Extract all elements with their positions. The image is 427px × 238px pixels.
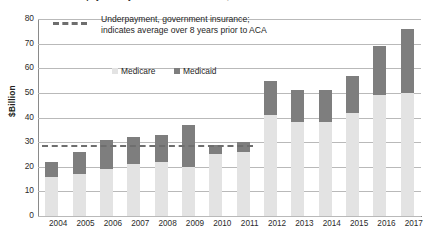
bar-2012 xyxy=(264,81,277,216)
x-tick-2013: 2013 xyxy=(291,219,317,228)
bar-segment-medicare-2011 xyxy=(237,152,250,216)
y-axis-tick-labels: 01020304050607080 xyxy=(0,19,34,217)
bar-segment-medicare-2016 xyxy=(373,95,386,216)
x-tick-2016: 2016 xyxy=(373,219,399,228)
chart-title: Underpayment by Medicare and Medicaid, 2… xyxy=(62,0,272,1)
legend-swatch-medicare-icon xyxy=(112,68,118,74)
bar-segment-medicaid-2008 xyxy=(155,135,168,162)
x-tick-2012: 2012 xyxy=(264,219,290,228)
bar-segment-medicare-2010 xyxy=(209,154,222,216)
bar-2011 xyxy=(237,142,250,216)
legend-average: Underpayment, government insurance; indi… xyxy=(53,14,353,44)
x-tick-2014: 2014 xyxy=(319,219,345,228)
x-axis-tick-labels: 2004200520062007200820092010201120122013… xyxy=(38,219,421,235)
x-tick-2006: 2006 xyxy=(100,219,126,228)
bar-2009 xyxy=(182,125,195,216)
x-tick-2009: 2009 xyxy=(182,219,208,228)
bar-2010 xyxy=(209,145,222,216)
bar-segment-medicare-2007 xyxy=(127,164,140,216)
legend-swatch-medicaid-icon xyxy=(174,68,180,74)
legend-average-line2: indicates average over 8 years prior to … xyxy=(101,25,267,35)
bar-segment-medicare-2008 xyxy=(155,162,168,216)
y-tick-60: 60 xyxy=(4,62,34,72)
bar-2016 xyxy=(373,46,386,216)
bar-segment-medicare-2009 xyxy=(182,167,195,216)
y-tick-40: 40 xyxy=(4,112,34,122)
chart-title-clipped: Underpayment by Medicare and Medicaid, 2… xyxy=(0,0,427,7)
y-tick-0: 0 xyxy=(4,210,34,220)
bar-segment-medicare-2014 xyxy=(319,122,332,216)
bar-2007 xyxy=(127,137,140,216)
bar-series-group xyxy=(38,19,421,216)
bar-2005 xyxy=(73,152,86,216)
bar-segment-medicaid-2014 xyxy=(319,90,332,122)
legend-item-medicaid: Medicaid xyxy=(174,66,217,76)
plot-area xyxy=(38,19,421,216)
bar-segment-medicare-2017 xyxy=(401,93,414,216)
y-tick-20: 20 xyxy=(4,161,34,171)
bar-segment-medicaid-2004 xyxy=(45,162,58,177)
x-tick-2017: 2017 xyxy=(401,219,427,228)
bar-segment-medicaid-2016 xyxy=(373,46,386,95)
x-tick-2015: 2015 xyxy=(346,219,372,228)
x-tick-2004: 2004 xyxy=(45,219,71,228)
bar-segment-medicare-2005 xyxy=(73,174,86,216)
legend-item-medicare: Medicare xyxy=(112,66,155,76)
y-tick-30: 30 xyxy=(4,136,34,146)
bar-segment-medicaid-2005 xyxy=(73,152,86,174)
bar-2008 xyxy=(155,135,168,216)
bar-2006 xyxy=(100,140,113,216)
bar-2015 xyxy=(346,76,359,216)
bar-segment-medicaid-2007 xyxy=(127,137,140,164)
bar-segment-medicare-2006 xyxy=(100,169,113,216)
y-tick-70: 70 xyxy=(4,38,34,48)
bar-2014 xyxy=(319,90,332,216)
x-tick-2005: 2005 xyxy=(73,219,99,228)
bar-2017 xyxy=(401,29,414,216)
legend-average-text: Underpayment, government insurance; indi… xyxy=(101,14,267,37)
dashed-line-swatch-icon xyxy=(53,22,87,25)
bar-2013 xyxy=(291,90,304,216)
x-tick-2011: 2011 xyxy=(237,219,263,228)
legend-average-line1: Underpayment, government insurance; xyxy=(101,14,250,24)
bar-segment-medicare-2004 xyxy=(45,177,58,216)
legend-label-medicare: Medicare xyxy=(121,66,155,76)
bar-segment-medicare-2012 xyxy=(264,115,277,216)
x-tick-2008: 2008 xyxy=(155,219,181,228)
x-tick-2007: 2007 xyxy=(127,219,153,228)
gridline-0 xyxy=(38,216,421,217)
bar-segment-medicare-2013 xyxy=(291,122,304,216)
y-tick-80: 80 xyxy=(4,13,34,23)
chart-container: Underpayment by Medicare and Medicaid, 2… xyxy=(0,0,427,238)
x-tick-2010: 2010 xyxy=(209,219,235,228)
y-tick-10: 10 xyxy=(4,185,34,195)
y-tick-50: 50 xyxy=(4,87,34,97)
bar-segment-medicaid-2013 xyxy=(291,90,304,122)
bar-segment-medicaid-2015 xyxy=(346,76,359,113)
pre-aca-average-line xyxy=(42,145,253,147)
bar-segment-medicaid-2012 xyxy=(264,81,277,115)
bar-segment-medicare-2015 xyxy=(346,113,359,216)
bar-2004 xyxy=(45,162,58,216)
bar-segment-medicaid-2017 xyxy=(401,29,414,93)
legend-label-medicaid: Medicaid xyxy=(183,66,217,76)
